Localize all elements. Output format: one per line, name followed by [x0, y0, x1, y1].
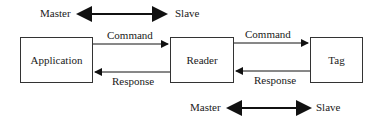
tag-reader-response-label: Response	[254, 74, 296, 86]
bottom-slave-label: Slave	[316, 101, 340, 113]
reader-tag-command-label: Command	[245, 28, 291, 40]
top-master-label: Master	[40, 7, 71, 19]
tag-node: Tag	[310, 37, 363, 83]
bottom-master-label: Master	[190, 101, 221, 113]
reader-node: Reader	[170, 37, 234, 83]
application-node: Application	[20, 37, 93, 83]
reader-label: Reader	[186, 54, 217, 66]
tag-label: Tag	[328, 54, 344, 66]
reader-app-response-label: Response	[112, 75, 154, 87]
app-reader-command-label: Command	[107, 29, 153, 41]
top-slave-label: Slave	[175, 7, 199, 19]
application-label: Application	[31, 54, 83, 66]
